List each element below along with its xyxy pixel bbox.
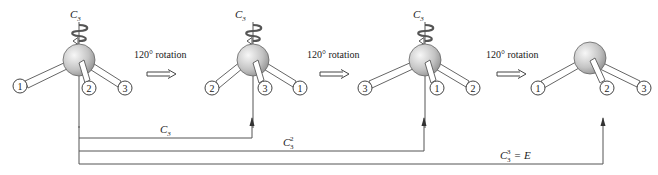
svg-text:1: 1 <box>18 81 23 92</box>
svg-text:3: 3 <box>123 83 128 94</box>
svg-text:3: 3 <box>363 83 368 94</box>
double-arrow-icon <box>320 70 349 79</box>
molecule-1: C3 1 2 3 <box>13 8 132 128</box>
axis-label: C3 <box>70 8 81 23</box>
ligand-3: 3 <box>358 81 372 95</box>
ligand-2: 2 <box>82 81 96 95</box>
ligand-1: 1 <box>531 81 545 95</box>
rotation-arrow-icon <box>418 22 433 45</box>
double-arrow-icon <box>147 70 176 79</box>
operation-label-c3: C3 <box>160 123 171 138</box>
axis-label: C3 <box>235 8 246 23</box>
ligand-3: 3 <box>118 81 132 95</box>
symmetry-diagram: C3 1 2 3 120° rotation <box>0 0 658 175</box>
central-atom <box>409 44 441 76</box>
svg-text:3: 3 <box>263 83 268 94</box>
svg-text:120° rotation: 120° rotation <box>134 49 187 60</box>
svg-text:1: 1 <box>435 83 440 94</box>
svg-text:3: 3 <box>642 83 647 94</box>
svg-text:1: 1 <box>536 83 541 94</box>
operation-label-c3-squared: C 2 3 <box>283 135 294 151</box>
svg-text:C3: C3 <box>160 123 171 138</box>
svg-text:2: 2 <box>471 83 476 94</box>
molecule-3: C3 3 1 2 <box>358 8 480 128</box>
ligand-3: 3 <box>258 81 272 95</box>
ligand-1: 1 <box>13 79 27 93</box>
central-atom <box>63 44 95 76</box>
svg-text:2: 2 <box>87 83 92 94</box>
svg-text:120° rotation: 120° rotation <box>486 49 539 60</box>
rotation-step-2: 120° rotation <box>307 49 360 79</box>
arrowheads <box>250 117 606 126</box>
svg-text:= E: = E <box>511 149 531 161</box>
molecule-2: C3 2 3 1 <box>205 8 307 128</box>
svg-text:2: 2 <box>290 135 294 143</box>
rotation-arrow-icon <box>246 22 261 45</box>
svg-text:3: 3 <box>290 143 294 151</box>
svg-text:2: 2 <box>605 83 610 94</box>
operation-label-c3-cubed-identity: C 3 3 = E <box>500 148 531 164</box>
rotation-step-3: 120° rotation <box>486 49 539 79</box>
rotation-arrow-icon <box>72 22 87 45</box>
central-atom <box>237 44 269 76</box>
arrow-up-icon <box>250 117 255 126</box>
molecule-4: 1 2 3 <box>531 42 651 95</box>
ligand-1: 1 <box>430 81 444 95</box>
axis-label: C3 <box>413 8 424 23</box>
arrow-up-icon <box>422 117 427 126</box>
svg-text:2: 2 <box>210 83 215 94</box>
ligand-3: 3 <box>637 81 651 95</box>
ligand-2: 2 <box>205 81 219 95</box>
central-atom <box>574 42 606 74</box>
ligand-1: 1 <box>293 81 307 95</box>
svg-text:1: 1 <box>298 83 303 94</box>
ligand-2: 2 <box>466 81 480 95</box>
double-arrow-icon <box>497 70 526 79</box>
arrow-up-icon <box>601 117 606 126</box>
rotation-step-1: 120° rotation <box>134 49 187 79</box>
ligand-2: 2 <box>600 81 614 95</box>
svg-text:120° rotation: 120° rotation <box>307 49 360 60</box>
